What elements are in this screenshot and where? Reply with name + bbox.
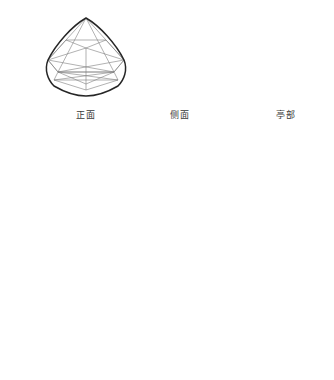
- gemstone-cut-diagram-sheet: [0, 0, 334, 380]
- front-view-label: 正面: [76, 108, 96, 121]
- front-view-figure: [46, 18, 125, 96]
- side-view-label: 侧面: [170, 108, 190, 121]
- pavilion-view-label: 亭部: [276, 108, 296, 121]
- front-facet-lines: [48, 18, 124, 90]
